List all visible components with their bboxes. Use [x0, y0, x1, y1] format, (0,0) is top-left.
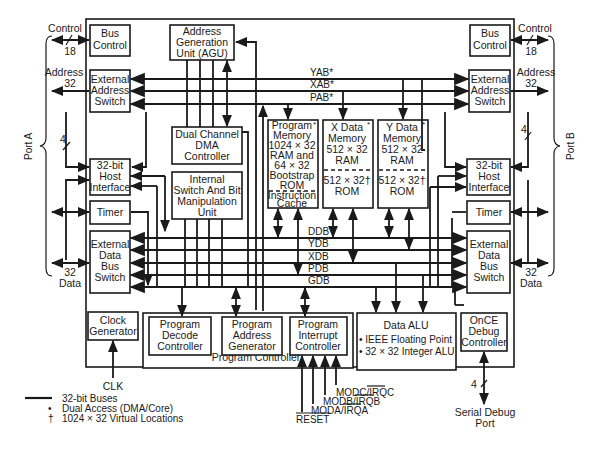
svg-text:Controller: Controller [184, 150, 230, 162]
internal-switch-bit-manipulation-unit: Internal Switch And Bit Manipulation Uni… [172, 172, 242, 219]
once-debug-controller: OnCE Debug Controller [461, 313, 507, 351]
svg-text:Control: Control [518, 22, 552, 34]
program-decode-controller: Program Decode Controller [149, 317, 211, 355]
dsp-block-diagram: Port A Port B Bus Control External Addre… [0, 0, 595, 449]
svg-text:Data ALU: Data ALU [384, 319, 429, 331]
host-interface-right: 32-bit Host Interface [467, 159, 510, 195]
svg-text:ROM: ROM [335, 185, 360, 197]
svg-text:*: * [313, 120, 316, 129]
gdb-label: GDB [308, 275, 330, 286]
svg-text:Generator: Generator [228, 340, 276, 352]
program-interrupt-controller: Program Interrupt Controller [290, 317, 347, 355]
address-generation-unit: Address Generation Unit (AGU) [170, 25, 234, 60]
xab-label: XAB* [310, 79, 334, 90]
svg-text:Interface: Interface [469, 181, 510, 193]
svg-text:Cache: Cache [277, 197, 308, 209]
svg-text:32: 32 [64, 77, 76, 89]
timer-right: Timer [467, 201, 510, 224]
bus-control-right: Bus Control [470, 25, 510, 56]
pab-label: PAB* [310, 92, 333, 103]
svg-text:• IEEE Floating Point: • IEEE Floating Point [359, 334, 452, 345]
reset-label: RESET [296, 414, 329, 425]
svg-text:• 32 × 32 Integer ALU: • 32 × 32 Integer ALU [359, 346, 455, 357]
svg-text:Switch: Switch [95, 271, 126, 283]
program-memory: Program Memory 1024 × 32 RAM and 64 × 32… [268, 119, 318, 209]
svg-text:Controller: Controller [157, 340, 203, 352]
program-address-generator: Program Address Generator [222, 317, 282, 355]
ydb-label: YDB [308, 238, 329, 249]
svg-text:Switch: Switch [95, 95, 126, 107]
svg-text:ROM: ROM [390, 185, 415, 197]
svg-text:18: 18 [525, 45, 537, 57]
svg-text:4: 4 [60, 133, 66, 145]
svg-text:Controller: Controller [461, 336, 507, 348]
external-data-bus-switch-right: External Data Bus Switch [467, 231, 510, 293]
yab-label: YAB* [310, 67, 333, 78]
svg-text:4: 4 [521, 123, 527, 135]
svg-text:Control: Control [93, 39, 127, 51]
svg-text:4: 4 [471, 378, 477, 390]
external-address-switch-right: External Address Switch [469, 70, 510, 112]
svg-text:Switch: Switch [474, 271, 505, 283]
x-data-memory: X Data Memory 512 × 32 RAM 512 × 32† ROM… [323, 120, 373, 208]
y-data-memory: Y Data Memory 512 × 32 RAM 512 × 32† ROM… [378, 120, 428, 208]
svg-text:Data: Data [59, 277, 81, 289]
xdb-label: XDB [308, 251, 329, 262]
svg-text:Timer: Timer [97, 206, 124, 218]
svg-text:Switch: Switch [475, 95, 506, 107]
svg-text:Control: Control [48, 22, 82, 34]
bus-control-left: Bus Control [90, 25, 130, 56]
svg-text:Timer: Timer [476, 206, 503, 218]
svg-text:18: 18 [64, 45, 76, 57]
svg-text:RAM: RAM [335, 154, 358, 166]
timer-left: Timer [90, 201, 130, 224]
clk-label: CLK [103, 380, 123, 392]
port-b-signals: Control 18 Address 32 4 32 Data [511, 22, 555, 289]
dual-channel-dma-controller: Dual Channel DMA Controller [172, 127, 242, 164]
clock-generator: Clock Generator [88, 312, 138, 340]
legend: 32-bit Buses • Dual Access (DMA/Core) † … [25, 393, 183, 424]
host-interface-left: 32-bit Host Interface [90, 159, 131, 195]
pdb-label: PDB [308, 263, 329, 274]
ddb-label: DDB [308, 226, 329, 237]
svg-text:Unit: Unit [198, 206, 217, 218]
svg-text:Generator: Generator [89, 325, 137, 337]
svg-text:Bus: Bus [101, 27, 119, 39]
svg-text:Port: Port [475, 417, 494, 429]
port-b-label: Port B [565, 132, 576, 160]
external-address-switch-left: External Address Switch [90, 70, 130, 112]
svg-text:*: * [367, 120, 370, 129]
legend-item-virtual-locations: 1024 × 32 Virtual Locations [62, 413, 183, 424]
svg-text:Controller: Controller [295, 340, 341, 352]
svg-text:Unit (AGU): Unit (AGU) [176, 47, 227, 59]
svg-text:RAM: RAM [390, 154, 413, 166]
svg-text:Interface: Interface [90, 181, 131, 193]
svg-text:32: 32 [525, 77, 537, 89]
address-buses: YAB* XAB* PAB* [131, 67, 468, 104]
svg-text:Control: Control [473, 39, 507, 51]
port-a-label: Port A [23, 132, 34, 160]
external-data-bus-switch-left: External Data Bus Switch [90, 231, 130, 293]
svg-text:Bus: Bus [481, 27, 499, 39]
data-alu: Data ALU • IEEE Floating Point • 32 × 32… [357, 313, 456, 370]
svg-text:Data: Data [520, 277, 542, 289]
legend-symbol-virtual: † [48, 413, 54, 424]
